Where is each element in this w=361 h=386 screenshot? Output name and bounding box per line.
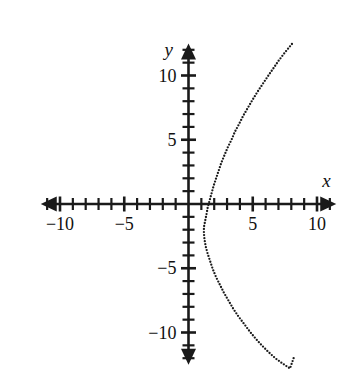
curve-dot xyxy=(227,146,229,148)
curve-dot xyxy=(237,124,239,126)
curve-dot xyxy=(272,67,274,69)
axis-arrow-right xyxy=(320,197,336,212)
curve-dot xyxy=(214,275,216,277)
curve-dot xyxy=(210,192,212,194)
curve-dot xyxy=(227,299,229,301)
curve-dot xyxy=(217,280,219,282)
curve-dot xyxy=(223,155,225,157)
curve-dot xyxy=(209,261,211,263)
curve-dot xyxy=(206,210,208,212)
curve-dot xyxy=(212,186,214,188)
axis-arrow-down xyxy=(181,349,196,365)
curve-dot xyxy=(237,315,239,317)
curve-dot xyxy=(219,166,221,168)
curve-dot xyxy=(244,111,246,113)
curve-dot xyxy=(241,320,243,322)
axis-arrow-up xyxy=(181,43,196,59)
curve-dot xyxy=(271,354,273,356)
curve-dot xyxy=(206,249,208,251)
curve-dot xyxy=(205,213,207,215)
curve-dot xyxy=(230,304,232,306)
curve-dot xyxy=(254,95,256,97)
curve-dot xyxy=(211,189,213,191)
curve-dot xyxy=(208,258,210,260)
curve-dot xyxy=(246,108,248,110)
curve-dot xyxy=(255,92,257,94)
curve-dot xyxy=(271,70,273,72)
curve-dot xyxy=(207,255,209,257)
curve-dot xyxy=(248,329,250,331)
curve-dot xyxy=(267,75,269,77)
curve-dot xyxy=(283,52,285,54)
curve-dot xyxy=(212,269,214,271)
curve-dot xyxy=(258,341,260,343)
curve-dot xyxy=(203,225,205,227)
curve-dot xyxy=(287,48,289,50)
y-tick-label: 5 xyxy=(168,129,177,150)
curve-dot xyxy=(222,157,224,159)
curve-dot xyxy=(221,289,223,291)
curve-dot xyxy=(278,60,280,62)
curve-dot xyxy=(203,234,205,236)
curve-dot xyxy=(232,307,234,309)
curve-dot xyxy=(262,345,264,347)
curve-dot xyxy=(274,65,276,67)
curve-dot xyxy=(285,365,287,367)
curve-dot xyxy=(218,169,220,171)
curve-dot xyxy=(210,195,212,197)
curve-dot xyxy=(204,240,206,242)
curve-dot xyxy=(280,361,282,363)
curve-dot xyxy=(249,103,251,105)
parabola-curve xyxy=(203,43,295,369)
curve-dot xyxy=(203,231,205,233)
curve-dot xyxy=(256,339,258,341)
curve-dot xyxy=(268,352,270,354)
curve-dot xyxy=(207,204,209,206)
curve-dot xyxy=(229,141,231,143)
curve-dot xyxy=(204,222,206,224)
curve-dot xyxy=(264,80,266,82)
curve-dot xyxy=(213,272,215,274)
x-tick-label: 5 xyxy=(248,214,257,235)
axis-arrow-left xyxy=(41,197,57,212)
curve-dot xyxy=(290,363,292,365)
x-tick-label: −5 xyxy=(115,214,134,235)
curve-dot xyxy=(250,100,252,102)
curve-dot xyxy=(273,356,275,358)
curve-dot xyxy=(206,252,208,254)
curve-dot xyxy=(269,72,271,74)
curve-dot xyxy=(225,149,227,151)
curve-dot xyxy=(203,228,205,230)
curve-dot xyxy=(224,294,226,296)
y-tick-label: −5 xyxy=(157,258,176,279)
curve-dot xyxy=(205,216,207,218)
curve-dot xyxy=(228,143,230,145)
curve-dot xyxy=(289,366,291,368)
x-axis-label: x xyxy=(322,170,330,192)
curve-dot xyxy=(226,297,228,299)
curve-dot xyxy=(216,278,218,280)
curve-dot xyxy=(262,82,264,84)
curve-dot xyxy=(234,130,236,132)
curve-dot xyxy=(275,358,277,360)
curve-dot xyxy=(224,152,226,154)
curve-dot xyxy=(206,207,208,209)
x-tick-label: 10 xyxy=(308,214,326,235)
curve-dot xyxy=(254,336,256,338)
x-tick-label: −10 xyxy=(46,214,74,235)
curve-dot xyxy=(241,116,243,118)
curve-dot xyxy=(209,198,211,200)
curve-dot xyxy=(242,322,244,324)
curve-dot xyxy=(231,138,233,140)
curve-dot xyxy=(220,286,222,288)
curve-dot xyxy=(276,62,278,64)
curve-dot xyxy=(210,263,212,265)
curve-dot xyxy=(239,317,241,319)
curve-dot xyxy=(204,243,206,245)
curve-dot xyxy=(217,172,219,174)
curve-dot xyxy=(246,327,248,329)
curve-dot xyxy=(285,50,287,52)
curve-dot xyxy=(266,350,268,352)
curve-dot xyxy=(281,55,283,57)
curve-dot xyxy=(289,45,291,47)
